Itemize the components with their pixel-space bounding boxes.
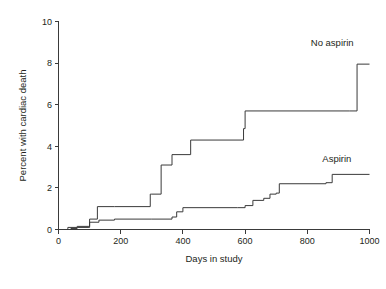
y-tick-label: 0 xyxy=(47,225,52,235)
y-tick-label: 6 xyxy=(47,100,52,110)
series-layer xyxy=(59,64,370,229)
kaplan-meier-chart: 024681002004006008001000 Days in studyPe… xyxy=(0,0,386,289)
x-tick-label: 800 xyxy=(300,236,315,246)
y-tick-label: 8 xyxy=(47,58,52,68)
x-tick-label: 0 xyxy=(56,236,61,246)
y-axis-title: Percent with cardiac death xyxy=(17,70,28,182)
series-line-aspirin xyxy=(59,174,370,229)
x-tick-label: 400 xyxy=(175,236,190,246)
axis-layer: 024681002004006008001000 xyxy=(42,17,380,246)
x-tick-label: 600 xyxy=(238,236,253,246)
series-label-no-aspirin: No aspirin xyxy=(311,37,354,48)
y-tick-label: 10 xyxy=(42,17,52,27)
y-tick-label: 2 xyxy=(47,183,52,193)
figure-container: 024681002004006008001000 Days in studyPe… xyxy=(0,0,386,289)
x-axis-title: Days in study xyxy=(185,253,242,264)
y-tick-label: 4 xyxy=(47,142,52,152)
x-tick-label: 200 xyxy=(113,236,128,246)
x-tick-label: 1000 xyxy=(359,236,379,246)
series-label-aspirin: Aspirin xyxy=(322,153,351,164)
series-line-no-aspirin xyxy=(59,64,370,229)
